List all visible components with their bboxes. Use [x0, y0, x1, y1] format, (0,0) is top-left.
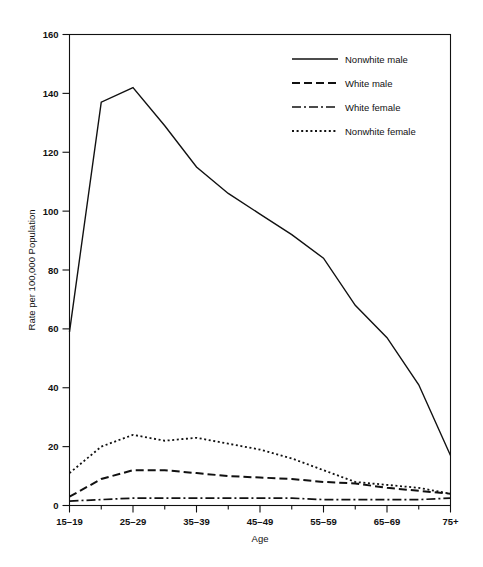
- legend-label-nonwhite-female: Nonwhite female: [345, 126, 416, 137]
- y-tick-label: 120: [43, 147, 59, 158]
- chart-figure: 020406080100120140160 15–1925–2935–3945–…: [0, 0, 483, 567]
- y-tick-label: 100: [43, 206, 59, 217]
- legend-label-nonwhite-male: Nonwhite male: [345, 54, 408, 65]
- x-tick-label: 45–49: [247, 516, 273, 527]
- x-tick-label: 25–29: [120, 516, 146, 527]
- y-tick-label: 0: [53, 500, 58, 511]
- x-tick-label: 65–69: [374, 516, 400, 527]
- chart-background: [0, 0, 483, 567]
- y-tick-label: 60: [48, 323, 59, 334]
- legend-label-white-female: White female: [345, 102, 400, 113]
- y-axis-title: Rate per 100,000 Population: [26, 210, 37, 331]
- legend-label-white-male: White male: [345, 78, 393, 89]
- y-tick-label: 140: [43, 88, 59, 99]
- x-tick-label: 75+: [442, 516, 459, 527]
- chart-svg: 020406080100120140160 15–1925–2935–3945–…: [0, 0, 483, 567]
- x-tick-label: 15–19: [56, 516, 82, 527]
- y-tick-label: 40: [48, 382, 59, 393]
- y-tick-label: 160: [43, 29, 59, 40]
- y-tick-label: 20: [48, 441, 59, 452]
- y-tick-label: 80: [48, 265, 59, 276]
- x-tick-label: 35–39: [183, 516, 209, 527]
- x-tick-label: 55–59: [310, 516, 336, 527]
- x-axis-title: Age: [252, 533, 269, 544]
